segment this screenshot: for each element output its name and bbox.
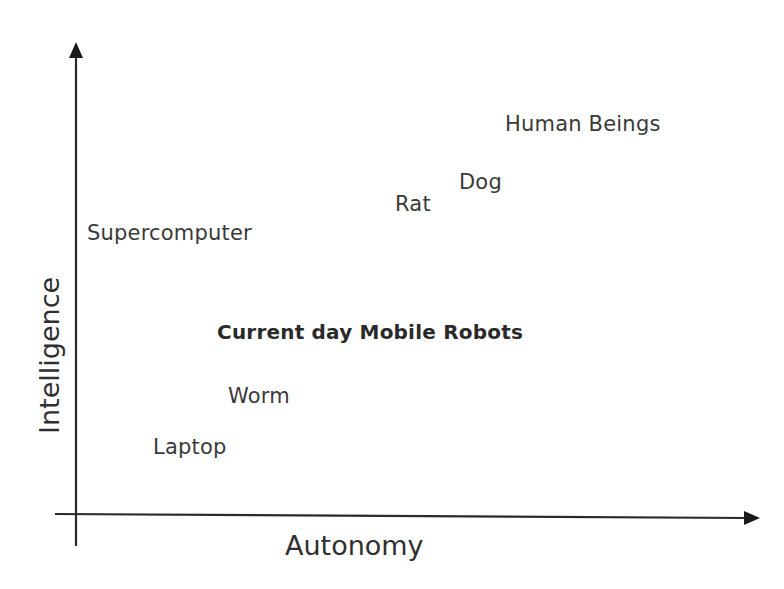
y-axis-title: Intelligence: [36, 277, 63, 434]
label-laptop: Laptop: [153, 437, 227, 458]
y-axis-arrow-icon: [69, 42, 83, 58]
label-supercomputer: Supercomputer: [87, 223, 252, 244]
label-human-beings: Human Beings: [505, 114, 661, 135]
x-axis-arrow-icon: [744, 511, 760, 525]
label-mobile-robots: Current day Mobile Robots: [217, 322, 523, 342]
autonomy-intelligence-diagram: Human Beings Dog Rat Supercomputer Curre…: [0, 0, 784, 589]
label-worm: Worm: [228, 386, 290, 407]
label-dog: Dog: [459, 172, 502, 193]
x-axis-line: [55, 514, 748, 518]
label-rat: Rat: [395, 194, 431, 215]
x-axis-title: Autonomy: [285, 532, 424, 559]
axes: [0, 0, 784, 589]
